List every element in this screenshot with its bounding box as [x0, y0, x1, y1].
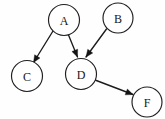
graph-node-c[interactable]: C	[12, 61, 43, 92]
graph-node-b[interactable]: B	[103, 3, 133, 33]
graph-edge-a-c	[34, 31, 54, 63]
graph-edge-a-d	[69, 35, 78, 57]
graph-node-d[interactable]: D	[66, 59, 97, 90]
graph-node-f[interactable]: F	[132, 87, 162, 117]
node-label: B	[114, 12, 122, 26]
graph-canvas: ABCDF	[0, 0, 165, 119]
node-label: D	[77, 68, 86, 82]
node-label: C	[23, 70, 31, 84]
arrow-head-icon	[72, 49, 78, 57]
graph-node-a[interactable]: A	[49, 5, 80, 36]
graph-figure: ABCDF	[0, 0, 165, 119]
node-label: A	[60, 14, 69, 28]
arrow-head-icon	[86, 49, 93, 57]
arrow-head-icon	[34, 55, 40, 63]
graph-edge-d-f	[95, 80, 133, 95]
node-label: F	[144, 96, 151, 110]
arrow-head-icon	[125, 89, 133, 95]
graph-edge-b-d	[86, 29, 107, 57]
